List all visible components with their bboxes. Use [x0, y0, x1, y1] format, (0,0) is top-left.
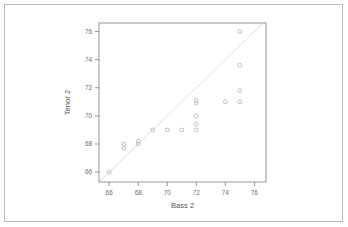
- x-tick-label: 70: [164, 189, 172, 196]
- y-tick-label: 74: [85, 56, 93, 63]
- x-axis-ticks: 666870727476: [106, 182, 259, 196]
- x-tick-label: 76: [251, 189, 259, 196]
- y-tick-label: 72: [85, 84, 93, 91]
- data-point: [194, 122, 198, 126]
- data-points-group: [107, 30, 241, 175]
- x-tick-label: 72: [193, 189, 201, 196]
- x-tick-label: 68: [135, 189, 143, 196]
- data-point: [238, 100, 242, 104]
- data-point: [238, 63, 242, 67]
- data-point: [122, 142, 126, 146]
- y-axis-title: Tenor 2: [63, 90, 72, 115]
- data-point: [194, 114, 198, 118]
- plot-canvas: 666870727476 666870727476 Bass 2 Tenor 2: [0, 0, 348, 227]
- x-tick-label: 66: [106, 189, 114, 196]
- data-point: [165, 128, 169, 132]
- y-axis-ticks: 666870727476: [85, 28, 99, 176]
- data-point: [223, 100, 227, 104]
- identity-reference-line: [99, 20, 266, 182]
- y-tick-label: 70: [85, 112, 93, 119]
- data-point: [194, 128, 198, 132]
- data-point: [122, 146, 126, 150]
- x-axis-title: Bass 2: [171, 201, 194, 210]
- data-point: [180, 128, 184, 132]
- x-tick-label: 74: [222, 189, 230, 196]
- y-tick-label: 66: [85, 168, 93, 175]
- scatter-plot-figure: 666870727476 666870727476 Bass 2 Tenor 2: [0, 0, 348, 227]
- reference-line-group: [99, 20, 266, 182]
- y-tick-label: 68: [85, 140, 93, 147]
- data-point: [238, 30, 242, 34]
- y-tick-label: 76: [85, 28, 93, 35]
- data-point: [238, 89, 242, 93]
